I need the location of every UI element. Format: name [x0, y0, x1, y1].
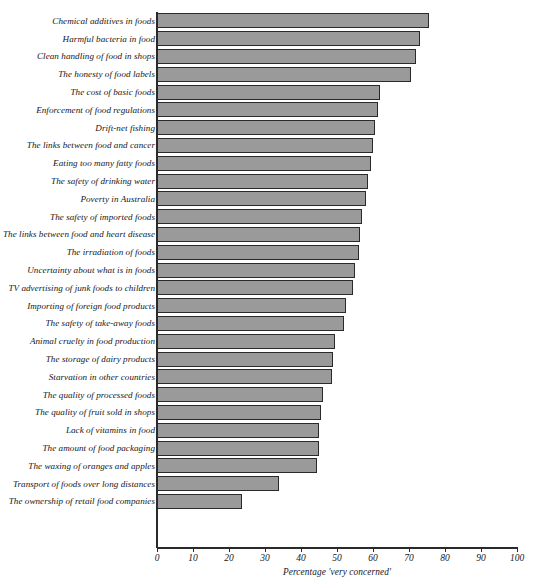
x-tick-label: 80: [440, 553, 450, 563]
bar-row: TV advertising of junk foods to children: [0, 279, 537, 297]
bar: [157, 209, 362, 224]
bar: [157, 102, 378, 117]
bar-category-label: Enforcement of food regulations: [3, 105, 155, 115]
bar-category-label: The links between food and heart disease: [3, 229, 155, 239]
bar-track: [157, 280, 517, 295]
bar: [157, 49, 416, 64]
bar: [157, 316, 344, 331]
bar-category-label: The storage of dairy products: [3, 354, 155, 364]
bar-row: The safety of drinking water: [0, 172, 537, 190]
bar-category-label: The irradiation of foods: [3, 247, 155, 257]
bar-track: [157, 138, 517, 153]
bar-category-label: Transport of foods over long distances: [3, 479, 155, 489]
bar: [157, 138, 373, 153]
x-axis-title: Percentage 'very concerned': [157, 567, 517, 577]
bar: [157, 494, 242, 509]
bar-category-label: The links between food and cancer: [3, 140, 155, 150]
chart-rows: Chemical additives in foodsHarmful bacte…: [0, 12, 537, 510]
bar-track: [157, 31, 517, 46]
bar-track: [157, 316, 517, 331]
bar-category-label: The safety of take-away foods: [3, 318, 155, 328]
bar-category-label: Chemical additives in foods: [3, 16, 155, 26]
bar-category-label: Clean handling of food in shops: [3, 51, 155, 61]
y-axis-line: [156, 12, 158, 548]
bar-track: [157, 13, 517, 28]
x-tick-label: 0: [155, 553, 160, 563]
x-tick: [229, 547, 230, 552]
bar-category-label: The quality of fruit sold in shops: [3, 407, 155, 417]
bar-category-label: The safety of imported foods: [3, 212, 155, 222]
bar-row: The waxing of oranges and apples: [0, 457, 537, 475]
bar-category-label: Lack of vitamins in food: [3, 425, 155, 435]
bar-row: The links between food and cancer: [0, 137, 537, 155]
x-tick: [373, 547, 374, 552]
bar-track: [157, 298, 517, 313]
bar-row: Lack of vitamins in food: [0, 421, 537, 439]
bar-category-label: Animal cruelty in food production: [3, 336, 155, 346]
bar-track: [157, 369, 517, 384]
bar-category-label: The honesty of food labels: [3, 69, 155, 79]
bar-track: [157, 387, 517, 402]
bar-row: Clean handling of food in shops: [0, 48, 537, 66]
bar-row: The cost of basic foods: [0, 83, 537, 101]
bar-row: Uncertainty about what is in foods: [0, 261, 537, 279]
bar: [157, 387, 323, 402]
bar-category-label: Starvation in other countries: [3, 372, 155, 382]
bar-track: [157, 423, 517, 438]
x-tick-label: 30: [260, 553, 270, 563]
bar-track: [157, 405, 517, 420]
bar: [157, 67, 411, 82]
x-tick: [337, 547, 338, 552]
bar-category-label: Harmful bacteria in food: [3, 34, 155, 44]
bar: [157, 334, 335, 349]
x-tick: [445, 547, 446, 552]
x-tick-label: 20: [224, 553, 234, 563]
bar: [157, 156, 371, 171]
bar: [157, 191, 366, 206]
bar: [157, 227, 360, 242]
bar-track: [157, 458, 517, 473]
bar-track: [157, 334, 517, 349]
bar-row: Transport of foods over long distances: [0, 475, 537, 493]
bar: [157, 85, 380, 100]
x-tick: [481, 547, 482, 552]
bar-row: The quality of processed foods: [0, 386, 537, 404]
bar: [157, 476, 279, 491]
x-tick: [301, 547, 302, 552]
bar-track: [157, 67, 517, 82]
x-tick-label: 70: [404, 553, 414, 563]
bar: [157, 458, 317, 473]
bar: [157, 280, 353, 295]
bar-row: The links between food and heart disease: [0, 226, 537, 244]
bar-category-label: The ownership of retail food companies: [3, 496, 155, 506]
bar-row: Starvation in other countries: [0, 368, 537, 386]
bar: [157, 423, 319, 438]
bar: [157, 369, 332, 384]
bar-category-label: The safety of drinking water: [3, 176, 155, 186]
bar-category-label: The waxing of oranges and apples: [3, 461, 155, 471]
bar-chart: Chemical additives in foodsHarmful bacte…: [0, 0, 537, 585]
bar-track: [157, 156, 517, 171]
bar-category-label: Importing of foreign food products: [3, 301, 155, 311]
x-tick-label: 100: [510, 553, 524, 563]
bar-row: The storage of dairy products: [0, 350, 537, 368]
bar: [157, 405, 321, 420]
bar-row: The quality of fruit sold in shops: [0, 404, 537, 422]
bar: [157, 298, 346, 313]
bar: [157, 31, 420, 46]
bar-category-label: Uncertainty about what is in foods: [3, 265, 155, 275]
bar-row: Drift-net fishing: [0, 119, 537, 137]
bar-row: Poverty in Australia: [0, 190, 537, 208]
bar-track: [157, 191, 517, 206]
bar-category-label: The cost of basic foods: [3, 87, 155, 97]
x-tick: [157, 547, 158, 552]
bar-track: [157, 102, 517, 117]
x-tick: [265, 547, 266, 552]
bar-track: [157, 174, 517, 189]
bar-category-label: The quality of processed foods: [3, 390, 155, 400]
bar-track: [157, 227, 517, 242]
bar-row: The honesty of food labels: [0, 65, 537, 83]
bar: [157, 441, 319, 456]
bar-row: Harmful bacteria in food: [0, 30, 537, 48]
chart-page: Chemical additives in foodsHarmful bacte…: [0, 0, 537, 585]
